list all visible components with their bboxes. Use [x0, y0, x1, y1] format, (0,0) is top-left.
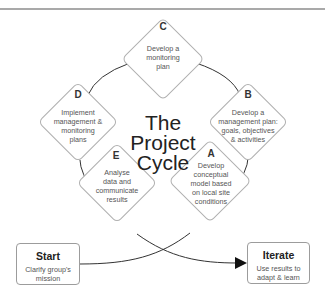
- step-a-line: model based: [171, 179, 251, 188]
- step-a-line: conditions: [171, 197, 251, 206]
- step-c-line: Develop a: [123, 44, 203, 53]
- step-d-letter: D: [63, 89, 93, 100]
- step-e-line: communicate: [77, 186, 157, 195]
- step-b-line: & activities: [203, 135, 293, 144]
- step-d-line: Implement: [38, 108, 118, 117]
- step-c-line: monitoring: [123, 53, 203, 62]
- step-d-text: Implement management & monitoring plans: [38, 108, 118, 144]
- iterate-line: Use results to: [248, 264, 309, 273]
- iterate-line: adapt & learn: [248, 273, 309, 282]
- step-e-text: Analyse data and communicate results: [77, 168, 157, 204]
- iterate-box: Iterate Use results to adapt & learn: [247, 242, 310, 284]
- arrowhead-icon: [235, 257, 247, 269]
- start-description: Clarify group's mission: [17, 265, 79, 283]
- step-c-letter: C: [148, 21, 178, 32]
- step-e-line: results: [77, 195, 157, 204]
- start-line: Clarify group's: [17, 265, 79, 274]
- connector-start-to-a: [80, 233, 190, 264]
- step-b-line: management plan:: [203, 117, 293, 126]
- title-line-1: The: [113, 113, 213, 133]
- step-b-text: Develop a management plan: goals, object…: [203, 108, 293, 144]
- step-d-line: management &: [38, 117, 118, 126]
- step-b-letter: B: [233, 89, 263, 100]
- step-e-letter: E: [101, 150, 131, 161]
- step-e-line: data and: [77, 177, 157, 186]
- step-b-line: Develop a: [203, 108, 293, 117]
- step-b-line: goals, objectives: [203, 126, 293, 135]
- step-a-line: Develop: [171, 161, 251, 170]
- step-c-line: plan: [123, 62, 203, 71]
- step-a-letter: A: [196, 148, 226, 159]
- connector-e-to-iterate: [137, 234, 238, 263]
- step-d-line: plans: [38, 135, 118, 144]
- step-a-text: Develop conceptual model based on local …: [171, 161, 251, 206]
- start-title: Start: [17, 250, 79, 262]
- iterate-description: Use results to adapt & learn: [248, 264, 309, 282]
- start-line: mission: [17, 274, 79, 283]
- step-c-text: Develop a monitoring plan: [123, 44, 203, 71]
- step-d-line: monitoring: [38, 126, 118, 135]
- step-e-line: Analyse: [77, 168, 157, 177]
- start-box: Start Clarify group's mission: [16, 243, 80, 285]
- step-a-line: conceptual: [171, 170, 251, 179]
- step-a-line: on local site: [171, 188, 251, 197]
- iterate-title: Iterate: [248, 249, 309, 261]
